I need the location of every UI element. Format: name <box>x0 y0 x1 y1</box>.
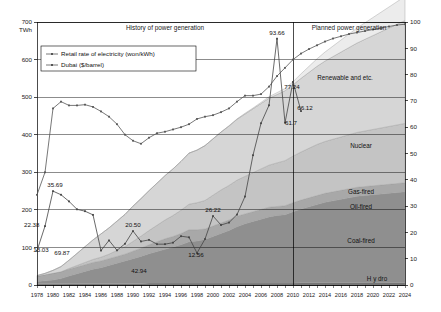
ytick-label-right-60: 60 <box>410 123 417 130</box>
ytick-label-right-50: 50 <box>410 150 417 157</box>
ytick-label-right-70: 70 <box>410 97 417 104</box>
point-marker-dubai-barrel <box>132 230 134 232</box>
point-marker-dubai-barrel <box>180 235 182 237</box>
point-marker-retail-rate-of-electricity-won-kwh <box>156 132 158 134</box>
y-axis-unit-label: TWh <box>19 26 33 33</box>
point-marker-retail-rate-of-electricity-won-kwh <box>36 194 38 196</box>
xtick-label-2016: 2016 <box>335 292 347 298</box>
point-marker-dubai-barrel <box>164 243 166 245</box>
data-label-20-50: 20.50 <box>125 221 141 228</box>
point-marker-dubai-barrel <box>108 240 110 242</box>
data-label-13-03: 13.03 <box>33 246 49 253</box>
point-marker-retail-rate-of-electricity-won-kwh <box>292 59 294 61</box>
point-marker-dubai-barrel <box>92 214 94 216</box>
point-marker-dubai-barrel <box>84 210 86 212</box>
band-label-nuclear: Nuclear <box>350 142 372 149</box>
ytick-label-right-100: 100 <box>410 18 421 25</box>
point-marker-dubai-barrel <box>148 239 150 241</box>
ytick-label-right-90: 90 <box>410 45 417 52</box>
point-marker-retail-rate-of-electricity-won-kwh <box>244 95 246 97</box>
point-marker-retail-rate-of-electricity-won-kwh <box>388 26 390 28</box>
point-marker-retail-rate-of-electricity-won-kwh <box>76 105 78 107</box>
point-marker-retail-rate-of-electricity-won-kwh <box>172 129 174 131</box>
point-marker-retail-rate-of-electricity-won-kwh <box>100 111 102 113</box>
xtick-label-1992: 1992 <box>143 292 155 298</box>
section-label-planned-power-generation: Planned power generation <box>312 24 387 32</box>
point-marker-retail-rate-of-electricity-won-kwh <box>276 75 278 77</box>
point-marker-dubai-barrel <box>68 200 70 202</box>
xtick-label-2012: 2012 <box>303 292 315 298</box>
xtick-label-1996: 1996 <box>175 292 187 298</box>
point-marker-retail-rate-of-electricity-won-kwh <box>180 126 182 128</box>
point-marker-dubai-barrel <box>116 249 118 251</box>
point-marker-retail-rate-of-electricity-won-kwh <box>196 118 198 120</box>
point-marker-retail-rate-of-electricity-won-kwh <box>396 24 398 26</box>
data-label-66-12: 66.12 <box>297 104 313 111</box>
section-label-history-of-power-generation: History of power generation <box>126 24 205 32</box>
xtick-label-2002: 2002 <box>223 292 235 298</box>
point-marker-dubai-barrel <box>52 190 54 192</box>
point-marker-retail-rate-of-electricity-won-kwh <box>404 23 406 25</box>
point-marker-retail-rate-of-electricity-won-kwh <box>116 123 118 125</box>
ytick-label-left-300: 300 <box>22 168 33 175</box>
ytick-label-left-0: 0 <box>29 281 33 288</box>
xtick-label-1982: 1982 <box>63 292 75 298</box>
data-label-61-7: 61.7 <box>285 119 298 126</box>
ytick-label-right-20: 20 <box>410 229 417 236</box>
xtick-label-2000: 2000 <box>207 292 219 298</box>
point-marker-retail-rate-of-electricity-won-kwh <box>308 48 310 50</box>
point-marker-retail-rate-of-electricity-won-kwh <box>228 108 230 110</box>
ytick-label-right-40: 40 <box>410 176 417 183</box>
point-marker-retail-rate-of-electricity-won-kwh <box>236 101 238 103</box>
point-marker-dubai-barrel <box>44 225 46 227</box>
point-marker-dubai-barrel <box>260 122 262 124</box>
point-marker-retail-rate-of-electricity-won-kwh <box>204 116 206 118</box>
point-marker-retail-rate-of-electricity-won-kwh <box>188 123 190 125</box>
xtick-label-1998: 1998 <box>191 292 203 298</box>
point-marker-dubai-barrel <box>236 214 238 216</box>
data-label-12-56: 12.56 <box>188 251 204 258</box>
point-marker-retail-rate-of-electricity-won-kwh <box>356 32 358 34</box>
data-label-35-69: 35.69 <box>47 181 63 188</box>
point-marker-dubai-barrel <box>100 250 102 252</box>
data-label-22-38: 22.38 <box>24 221 40 228</box>
ytick-label-left-700: 700 <box>22 18 33 25</box>
point-marker-dubai-barrel <box>228 222 230 224</box>
point-marker-retail-rate-of-electricity-won-kwh <box>340 35 342 37</box>
point-marker-dubai-barrel <box>212 215 214 217</box>
legend-label-1: Dubai ($/barrel) <box>61 61 104 68</box>
point-marker-dubai-barrel <box>172 242 174 244</box>
point-marker-retail-rate-of-electricity-won-kwh <box>300 53 302 55</box>
ytick-label-left-100: 100 <box>22 244 33 251</box>
legend-marker-point-0 <box>51 53 53 55</box>
point-marker-dubai-barrel <box>268 104 270 106</box>
point-marker-retail-rate-of-electricity-won-kwh <box>68 105 70 107</box>
data-label-77-24: 77.24 <box>284 83 300 90</box>
xtick-label-2018: 2018 <box>351 292 363 298</box>
xtick-label-2010: 2010 <box>287 292 299 298</box>
point-marker-retail-rate-of-electricity-won-kwh <box>60 101 62 103</box>
point-marker-dubai-barrel <box>124 243 126 245</box>
point-marker-retail-rate-of-electricity-won-kwh <box>260 93 262 95</box>
point-marker-dubai-barrel <box>188 236 190 238</box>
band-label-oil-fired: Oil-fired <box>350 203 373 210</box>
ytick-label-right-30: 30 <box>410 202 417 209</box>
point-marker-retail-rate-of-electricity-won-kwh <box>84 104 86 106</box>
ytick-label-right-80: 80 <box>410 71 417 78</box>
point-marker-dubai-barrel <box>220 224 222 226</box>
xtick-label-2022: 2022 <box>383 292 395 298</box>
ytick-label-right-0: 0 <box>410 281 414 288</box>
point-marker-retail-rate-of-electricity-won-kwh <box>212 114 214 116</box>
band-label-coal-fired: Coal-fired <box>347 237 375 244</box>
point-marker-dubai-barrel <box>252 154 254 156</box>
point-marker-retail-rate-of-electricity-won-kwh <box>348 33 350 35</box>
point-marker-retail-rate-of-electricity-won-kwh <box>108 116 110 118</box>
xtick-label-1988: 1988 <box>111 292 123 298</box>
ytick-label-right-10: 10 <box>410 255 417 262</box>
point-marker-retail-rate-of-electricity-won-kwh <box>124 134 126 136</box>
xtick-label-1978: 1978 <box>31 292 43 298</box>
point-marker-retail-rate-of-electricity-won-kwh <box>164 131 166 133</box>
legend-marker-point-1 <box>51 64 53 66</box>
point-marker-retail-rate-of-electricity-won-kwh <box>332 38 334 40</box>
ytick-label-left-500: 500 <box>22 93 33 100</box>
